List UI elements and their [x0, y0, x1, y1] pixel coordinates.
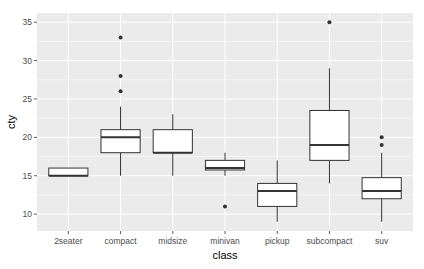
y-axis-title: cty	[5, 114, 17, 129]
outlier-point	[380, 135, 384, 139]
x-tick-label: subcompact	[307, 236, 353, 246]
y-tick-label: 20	[23, 132, 33, 142]
outlier-point	[119, 89, 123, 93]
box-iqr	[258, 183, 297, 206]
x-tick-label: compact	[104, 236, 137, 246]
x-axis-title: class	[212, 249, 238, 261]
y-axis: 101520253035	[23, 17, 37, 219]
y-tick-label: 25	[23, 94, 33, 104]
outlier-point	[223, 204, 227, 208]
box-iqr	[101, 130, 140, 153]
x-tick-label: pickup	[265, 236, 290, 246]
box-iqr	[153, 130, 192, 153]
outlier-point	[327, 20, 331, 24]
boxplot-chart: 101520253035 2seatercompactmidsizeminiva…	[0, 0, 424, 269]
y-tick-label: 30	[23, 56, 33, 66]
x-axis: 2seatercompactmidsizeminivanpickupsubcom…	[54, 231, 389, 246]
box-iqr	[49, 168, 88, 176]
y-tick-label: 10	[23, 209, 33, 219]
x-tick-label: 2seater	[54, 236, 83, 246]
box-2seater	[49, 168, 88, 176]
outlier-point	[119, 74, 123, 78]
y-tick-label: 35	[23, 17, 33, 27]
outlier-point	[119, 36, 123, 40]
x-tick-label: minivan	[210, 236, 240, 246]
box-iqr	[310, 110, 349, 160]
box-iqr	[362, 178, 401, 199]
y-tick-label: 15	[23, 171, 33, 181]
outlier-point	[380, 143, 384, 147]
x-tick-label: midsize	[158, 236, 187, 246]
x-tick-label: suv	[375, 236, 389, 246]
